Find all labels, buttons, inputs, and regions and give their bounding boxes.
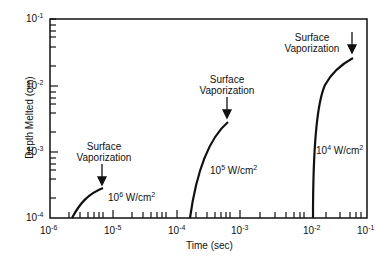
x-tick-label: 10-5 <box>104 224 121 236</box>
x-tick-label: 10-6 <box>40 224 57 236</box>
y-axis-title: Depth Melted (cm) <box>24 63 35 173</box>
y-axis-ticks <box>50 19 58 198</box>
x-tick-label: 10-2 <box>303 224 320 236</box>
annotation-surface-vaporization: SurfaceVaporization <box>276 32 348 54</box>
arrow-icon <box>348 32 356 53</box>
y-tick-label: 10-4 <box>26 211 43 223</box>
y-tick-label: 10-1 <box>26 12 43 24</box>
x-tick-label: 10-1 <box>357 224 374 236</box>
arrow-icon <box>223 97 231 118</box>
x-axis-ticks <box>69 210 361 218</box>
x-tick-label: 10-4 <box>168 224 185 236</box>
annotation-surface-vaporization: SurfaceVaporization <box>188 74 266 96</box>
curve-label-1e6: 106 W/cm2 <box>108 191 155 203</box>
x-tick-label: 10-3 <box>231 224 248 236</box>
annotation-surface-vaporization: SurfaceVaporization <box>65 141 143 163</box>
curve-1e4 <box>313 58 353 218</box>
curve-label-1e4: 104 W/cm2 <box>316 144 363 156</box>
curve-label-1e5: 105 W/cm2 <box>210 164 257 176</box>
x-axis-title: Time (sec) <box>186 240 233 251</box>
arrow-icon <box>98 164 106 185</box>
